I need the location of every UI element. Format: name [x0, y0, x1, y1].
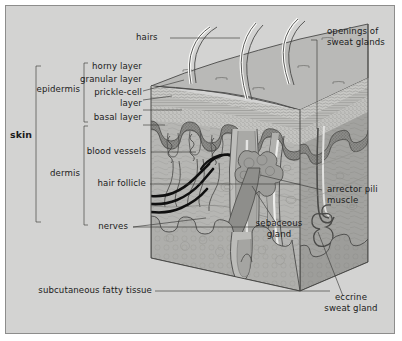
- label-eccrine-sweat-gland-line2: sweat gland: [312, 303, 390, 314]
- label-arrector-pili-muscle-line2: muscle: [327, 195, 395, 206]
- label-sebaceous-gland-line1: sebaceous: [250, 218, 308, 229]
- label-hair-follicle: hair follicle: [58, 178, 146, 189]
- label-sebaceous-gland-line2: gland: [250, 229, 308, 240]
- label-horny-layer: horny layer: [58, 61, 142, 72]
- label-prickle-cell-layer-line2: layer: [56, 98, 142, 109]
- label-blood-vessels: blood vessels: [54, 146, 146, 157]
- label-openings-sweat-glands-line1: openings of: [327, 26, 397, 37]
- label-skin: skin: [10, 130, 40, 141]
- label-granular-layer: granular layer: [52, 74, 142, 85]
- label-subcutaneous-fatty-tissue: subcutaneous fatty tissue: [26, 285, 152, 296]
- label-prickle-cell-layer-line1: prickle-cell: [56, 87, 142, 98]
- label-eccrine-sweat-gland-line1: eccrine: [318, 292, 384, 303]
- label-dermis: dermis: [20, 168, 80, 179]
- label-arrector-pili-muscle-line1: arrector pili: [327, 184, 395, 195]
- label-basal-layer: basal layer: [60, 112, 142, 123]
- bracket-dermis: [84, 126, 88, 225]
- skin-cross-section-figure: skin epidermis dermis horny layer granul…: [0, 0, 402, 341]
- label-hairs: hairs: [136, 32, 176, 43]
- label-nerves: nerves: [64, 221, 128, 232]
- label-openings-sweat-glands-line2: sweat glands: [327, 37, 399, 48]
- skin-block: [148, 20, 373, 300]
